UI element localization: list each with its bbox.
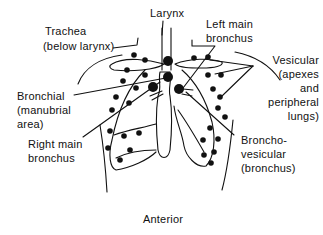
label-right-main-bronchus: Right main bronchus [28,137,83,165]
larynx-dot [163,56,173,66]
bronchus-arrow-right [150,91,163,100]
view-caption-anterior: Anterior [143,212,183,226]
vesicular-pointer-3 [222,66,253,96]
label-trachea: Trachea [45,24,86,38]
sternum [157,72,172,158]
label-vesicular: Vesicular (apexes and peripheral lungs) [268,53,319,123]
label-bronchovesicular: Broncho- vesicular (bronchus) [241,133,296,175]
label-bronchial: Bronchial (manubrial area) [17,89,71,131]
left-shoulder-outline [78,55,122,84]
left-main-bronchus-dot [174,84,184,94]
trachea-dot [163,72,173,82]
right-main-pointer [83,82,160,137]
larynx-pointer [162,21,163,35]
auscultation-dots [105,52,228,166]
label-larynx: Larynx [150,6,184,20]
breath-sounds-anterior-diagram: Larynx Trachea (below larynx) Left main … [0,0,323,235]
right-body-line [222,120,233,190]
left-lung-fissure [178,110,204,152]
left-clavicle [110,59,164,70]
vesicular-pointer-1 [210,60,253,66]
right-main-bronchus-dot [148,82,158,92]
trachea-pointer [113,38,138,48]
left-main-pointer [180,40,215,92]
label-left-main-bronchus: Left main bronchus [206,17,253,45]
right-lung-fissure [114,124,156,135]
label-trachea-sub: (below larynx) [43,39,114,53]
left-body-line [100,125,107,192]
